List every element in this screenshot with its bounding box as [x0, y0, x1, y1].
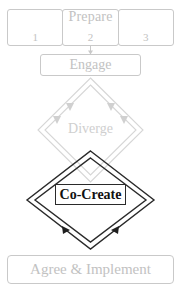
cocreate-label: Co-Create: [60, 187, 122, 203]
agree-implement-stage[interactable]: Agree & Implement: [7, 255, 174, 284]
cocreate-stage[interactable]: Co-Create: [55, 184, 126, 205]
prepare-cell-2-number: 2: [63, 31, 117, 44]
agree-implement-label: Agree & Implement: [30, 261, 151, 278]
diverge-label: Diverge: [0, 121, 181, 137]
engage-label: Engage: [70, 57, 112, 73]
prepare-cell-3-number: 3: [119, 31, 173, 44]
engage-stage[interactable]: Engage: [40, 54, 141, 76]
diagram-canvas: 1 2 3 Prepare Engage Diverge Co-Create A…: [0, 0, 181, 296]
prepare-cell-1-number: 1: [8, 31, 62, 44]
prepare-label: Prepare: [0, 9, 181, 25]
diverge-arrowhead-right-inner: [107, 103, 115, 111]
diverge-arrowhead-left-inner: [66, 103, 74, 111]
